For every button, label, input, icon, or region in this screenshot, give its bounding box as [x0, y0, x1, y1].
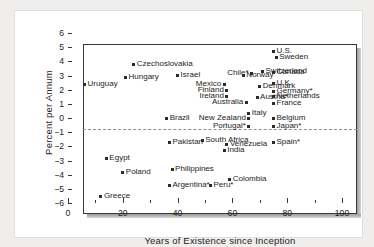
data-point	[250, 72, 253, 75]
data-point	[121, 171, 124, 174]
y-tick-mark	[68, 175, 72, 176]
y-tick-label: 6	[46, 28, 64, 38]
y-tick-label: −6	[46, 198, 64, 208]
y-tick-label: −2	[46, 141, 64, 151]
point-label: Philippines	[175, 165, 214, 173]
x-tick-mark-minor	[150, 200, 151, 203]
data-point	[261, 70, 264, 73]
y-tick-mark	[68, 47, 72, 48]
figure-card: Percent per Annum Years of Existence sin…	[15, 11, 362, 237]
point-label: France	[277, 99, 302, 107]
y-tick-label: 4	[46, 56, 64, 66]
data-point	[209, 184, 212, 187]
y-tick-label: 0	[46, 113, 64, 123]
data-point	[165, 117, 168, 120]
x-axis-title: Years of Existence since Inception	[83, 235, 357, 246]
y-tick-mark	[68, 203, 72, 204]
point-label: Pakistan	[172, 138, 203, 146]
data-point	[272, 50, 275, 53]
y-tick-mark	[68, 76, 72, 77]
point-label: Egypt	[109, 154, 129, 162]
x-tick-mark	[68, 198, 69, 203]
y-tick-label: −3	[46, 156, 64, 166]
y-tick-mark	[68, 189, 72, 190]
x-tick-label: 20	[108, 208, 138, 218]
point-label: Italy	[252, 109, 267, 117]
y-tick-mark	[68, 161, 72, 162]
point-label: Israel	[181, 71, 201, 79]
data-point	[272, 71, 275, 74]
point-label: Canada	[277, 68, 305, 76]
y-tick-label: −4	[46, 170, 64, 180]
data-point	[168, 184, 171, 187]
data-point	[225, 89, 228, 92]
x-tick-label: 60	[217, 208, 247, 218]
point-label: Portugal*	[213, 122, 246, 130]
y-tick-mark	[68, 33, 72, 34]
y-tick-label: 3	[46, 71, 64, 81]
point-label: Colombia	[233, 175, 267, 183]
y-tick-mark	[68, 104, 72, 105]
x-tick-mark	[178, 198, 179, 203]
data-point	[272, 95, 275, 98]
y-tick-mark	[68, 146, 72, 147]
data-point	[83, 83, 86, 86]
point-label: Brazil	[170, 114, 190, 122]
y-tick-label: 5	[46, 42, 64, 52]
x-tick-mark	[232, 198, 233, 203]
x-tick-mark-minor	[260, 200, 261, 203]
point-label: Peru*	[213, 181, 233, 189]
x-tick-mark-minor	[95, 200, 96, 203]
data-point	[223, 149, 226, 152]
point-label: India	[227, 146, 244, 154]
y-tick-mark	[68, 90, 72, 91]
point-label: Poland	[126, 168, 151, 176]
point-label: Chile*	[227, 69, 248, 77]
point-label: Uruguay	[87, 80, 117, 88]
y-tick-mark	[68, 118, 72, 119]
point-label: Czechoslovakia	[137, 60, 193, 68]
data-point	[99, 195, 102, 198]
y-tick-label: −1	[46, 127, 64, 137]
data-point	[247, 117, 250, 120]
point-label: Hungary	[129, 73, 159, 81]
data-point	[245, 101, 248, 104]
x-tick-label: 0	[53, 208, 83, 218]
page-background: Percent per Annum Years of Existence sin…	[0, 0, 374, 247]
data-point	[272, 141, 275, 144]
y-tick-mark	[68, 132, 72, 133]
y-tick-mark	[68, 61, 72, 62]
data-point	[256, 96, 259, 99]
data-point	[275, 56, 278, 59]
x-tick-mark	[287, 198, 288, 203]
x-tick-label: 40	[163, 208, 193, 218]
point-label: Japan*	[277, 122, 302, 130]
y-tick-label: 2	[46, 85, 64, 95]
data-point	[132, 63, 135, 66]
data-point	[124, 76, 127, 79]
frame-shadow-right	[357, 48, 361, 218]
x-tick-mark-minor	[205, 200, 206, 203]
y-tick-label: 1	[46, 99, 64, 109]
data-point	[272, 82, 275, 85]
data-point	[168, 141, 171, 144]
y-tick-label: −5	[46, 184, 64, 194]
data-point	[272, 102, 275, 105]
point-label: Sweden	[279, 53, 308, 61]
data-point	[105, 157, 108, 160]
data-point	[176, 74, 179, 77]
point-label: Greece	[104, 192, 130, 200]
data-point	[247, 112, 250, 115]
data-point	[272, 90, 275, 93]
x-tick-label: 80	[272, 208, 302, 218]
point-label: Spain*	[277, 138, 301, 146]
data-point	[258, 85, 261, 88]
data-point	[272, 117, 275, 120]
data-point	[201, 139, 204, 142]
data-point	[171, 168, 174, 171]
point-label: Argentina*	[172, 181, 209, 189]
x-tick-mark	[342, 198, 343, 203]
data-point	[247, 125, 250, 128]
x-tick-mark-minor	[315, 200, 316, 203]
data-point	[272, 125, 275, 128]
